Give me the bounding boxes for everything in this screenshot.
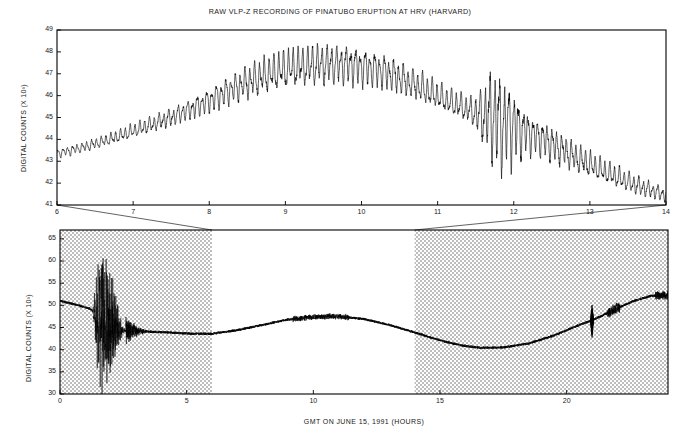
axis-tick-label: 10: [358, 208, 366, 215]
axis-tick-label: 0: [58, 397, 62, 404]
top-panel-ticks: [57, 30, 666, 205]
axis-tick-label: 9: [283, 208, 287, 215]
axis-tick-label: 41: [45, 200, 53, 207]
axis-tick-label: 40: [48, 345, 56, 352]
axis-tick-label: 15: [436, 397, 444, 404]
axis-tick-label: 30: [48, 389, 56, 396]
axis-tick-label: 8: [207, 208, 211, 215]
axis-tick-label: 7: [131, 208, 135, 215]
axis-tick-label: 42: [45, 178, 53, 185]
axis-tick-label: 12: [510, 208, 518, 215]
axis-tick-label: 50: [48, 300, 56, 307]
axis-tick-label: 45: [48, 323, 56, 330]
axis-tick-label: 45: [45, 113, 53, 120]
axis-tick-label: 6: [55, 208, 59, 215]
axis-tick-label: 13: [586, 208, 594, 215]
top-panel-frame: [57, 30, 666, 205]
axis-tick-label: 46: [45, 91, 53, 98]
figure-canvas: [0, 0, 680, 438]
top-panel-waveform: [57, 43, 666, 202]
axis-tick-label: 60: [48, 256, 56, 263]
axis-tick-label: 55: [48, 278, 56, 285]
axis-tick-label: 48: [45, 47, 53, 54]
axis-tick-label: 20: [563, 397, 571, 404]
figure-root: RAW VLP-Z RECORDING OF PINATUBO ERUPTION…: [0, 0, 680, 438]
axis-tick-label: 10: [309, 397, 317, 404]
axis-tick-label: 14: [662, 208, 670, 215]
axis-tick-label: 5: [185, 397, 189, 404]
axis-tick-label: 11: [434, 208, 441, 215]
axis-tick-label: 47: [45, 69, 53, 76]
axis-tick-label: 65: [48, 234, 56, 241]
axis-tick-label: 44: [45, 134, 53, 141]
axis-tick-label: 49: [45, 25, 53, 32]
axis-tick-label: 35: [48, 367, 56, 374]
top-panel-trace-group: [57, 43, 666, 202]
bottom-panel-shading: [60, 230, 668, 394]
shaded-region-left: [60, 230, 212, 394]
shaded-region-right: [415, 230, 668, 394]
axis-tick-label: 43: [45, 156, 53, 163]
